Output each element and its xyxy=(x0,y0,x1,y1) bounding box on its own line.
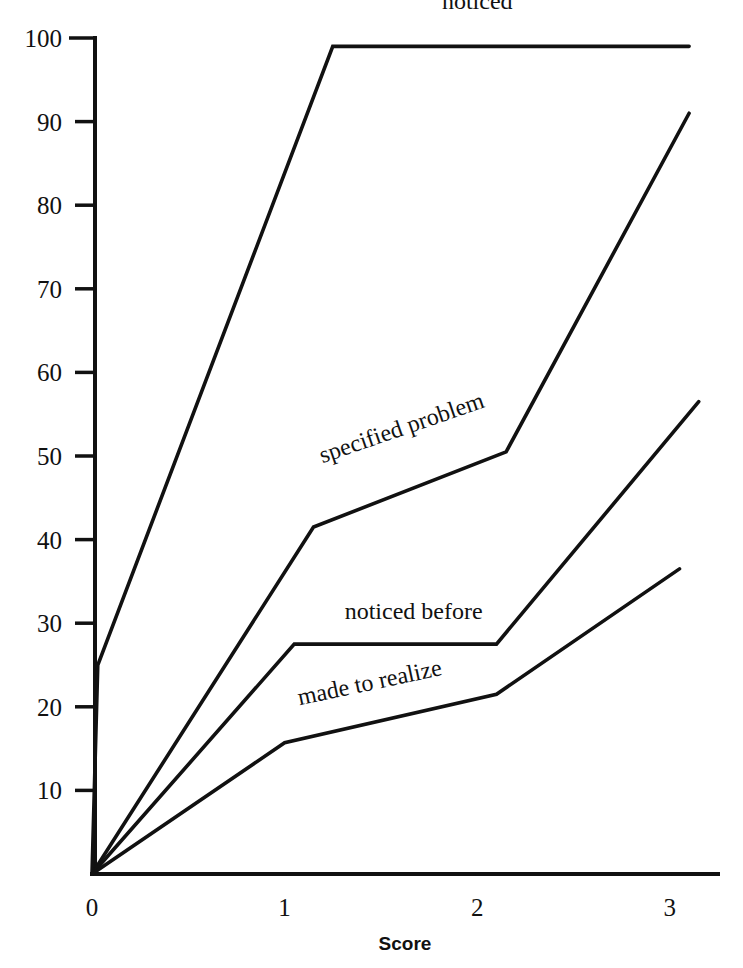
x-axis-tick-label: 3 xyxy=(664,894,677,921)
y-axis-tick-label: 100 xyxy=(25,25,63,52)
x-axis-tick-label: 2 xyxy=(471,894,484,921)
y-axis-tick-label: 70 xyxy=(37,276,62,303)
series-line-specified-problem xyxy=(92,113,689,874)
y-axis-tick-label: 20 xyxy=(37,694,62,721)
y-axis-tick-label: 40 xyxy=(37,527,62,554)
line-chart: 102030405060708090100 0123 noticedspecif… xyxy=(0,0,743,968)
y-axis-ticks xyxy=(69,38,95,790)
y-axis-tick-label: 80 xyxy=(37,192,62,219)
y-axis-tick-label: 90 xyxy=(37,109,62,136)
y-axis-tick-label: 50 xyxy=(37,443,62,470)
chart-axes xyxy=(92,38,718,874)
y-axis-tick-label: 60 xyxy=(37,359,62,386)
series-label-noticed: noticed xyxy=(442,0,513,14)
x-axis-tick-label: 1 xyxy=(278,894,291,921)
x-axis-tick-label: 0 xyxy=(86,894,99,921)
y-axis-tick-label: 10 xyxy=(37,777,62,804)
y-axis-tick-labels: 102030405060708090100 xyxy=(25,25,63,804)
x-axis-title: Score xyxy=(379,933,432,954)
x-axis-tick-labels: 0123 xyxy=(86,894,676,921)
series-label-specified-problem: specified problem xyxy=(316,387,488,468)
chart-container: 102030405060708090100 0123 noticedspecif… xyxy=(0,0,743,968)
chart-series-labels: noticedspecified problemnoticed beforema… xyxy=(295,0,512,710)
series-line-noticed xyxy=(92,46,689,874)
series-label-noticed-before: noticed before xyxy=(345,598,483,624)
y-axis-tick-label: 30 xyxy=(37,610,62,637)
series-label-made-to-realize: made to realize xyxy=(295,654,444,710)
chart-series-lines xyxy=(92,46,699,874)
series-line-noticed-before xyxy=(92,402,699,874)
